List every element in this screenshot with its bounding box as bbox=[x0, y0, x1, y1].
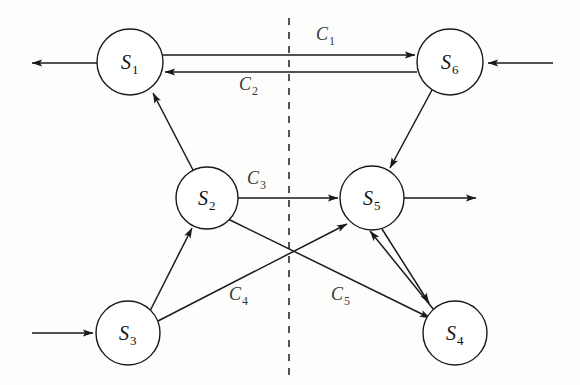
edge-s3-to-s2 bbox=[150, 228, 192, 311]
edge-label-c3: C3 bbox=[247, 168, 266, 192]
edge-label-c4: C4 bbox=[229, 284, 248, 308]
edge-s5-to-s4 bbox=[382, 229, 429, 303]
edge-label-c5: C5 bbox=[331, 284, 350, 308]
edge-label-c1: C1 bbox=[316, 24, 335, 48]
edge-s2-to-s1 bbox=[153, 93, 193, 170]
diagram-canvas: S1 S2 S3 S4 S5 S6 C1 C2 C3 C4 C5 bbox=[0, 0, 580, 385]
edge-label-c2: C2 bbox=[239, 74, 258, 98]
edge-s4-to-s5 bbox=[370, 231, 434, 310]
flow-network-diagram: S1 S2 S3 S4 S5 S6 C1 C2 C3 C4 C5 bbox=[0, 0, 580, 385]
edge-s6-to-s5 bbox=[390, 90, 432, 168]
